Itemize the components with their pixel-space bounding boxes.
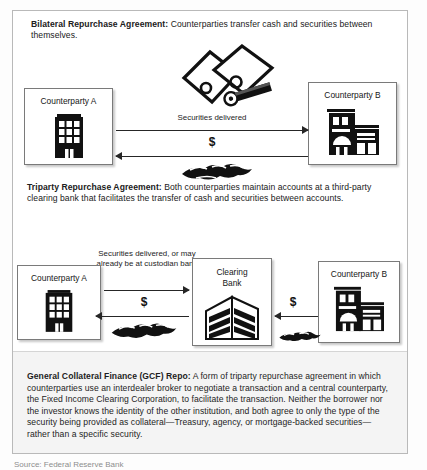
cash-banknotes-icon xyxy=(277,326,323,346)
source-caption-cropped: Source: Federal Reserve Bank xyxy=(14,462,344,470)
arrow-securities-a-to-b xyxy=(116,126,308,135)
arrow-shaft xyxy=(116,156,308,157)
securities-certificates-icon xyxy=(176,44,280,112)
arrow-cash-b-to-clearing xyxy=(275,312,318,321)
entity-label: Counterparty B xyxy=(319,269,399,279)
cash-banknotes-icon xyxy=(108,318,180,342)
entity-label-line1: Clearing xyxy=(216,267,247,277)
triparty-heading: Triparty Repurchase Agreement: Both coun… xyxy=(27,182,389,205)
arrow-label-cash-clearing-to-a: $ xyxy=(104,296,184,308)
arrow-head-left xyxy=(274,312,281,320)
gcf-heading-term: General Collateral Finance (GCF) Repo: xyxy=(27,371,191,381)
entity-label: Counterparty B xyxy=(309,90,396,100)
entity-box-counterparty-a-bilateral: Counterparty A xyxy=(24,88,113,165)
entity-label-line2: Bank xyxy=(222,278,241,288)
gcf-paragraph: General Collateral Finance (GCF) Repo: A… xyxy=(27,371,391,441)
arrow-head-right xyxy=(183,286,190,294)
arrow-securities-a-to-clearing xyxy=(104,286,189,295)
cash-banknotes-icon xyxy=(178,158,256,184)
arrow-label-securities-triparty: Securities delivered, or may already be … xyxy=(89,249,205,268)
entity-label: Counterparty A xyxy=(18,273,100,283)
arrow-shaft xyxy=(275,316,318,317)
office-building-icon xyxy=(25,110,112,160)
arrow-shaft xyxy=(104,290,189,291)
entity-label: Counterparty A xyxy=(25,96,112,106)
figure-page: Bilateral Repurchase Agreement: Counterp… xyxy=(0,0,427,470)
arrow-shaft xyxy=(116,130,308,131)
source-caption-text: Source: Federal Reserve Bank xyxy=(14,462,344,470)
arrow-head-left xyxy=(115,152,122,160)
arrow-shaft xyxy=(96,316,189,317)
arrow-head-left xyxy=(95,312,102,320)
arrow-head-right xyxy=(302,126,309,134)
entity-box-clearing-bank: Clearing Bank xyxy=(192,258,272,346)
office-building-icon xyxy=(18,286,100,334)
entity-box-counterparty-b-bilateral: Counterparty B xyxy=(308,82,397,165)
bank-building-icon xyxy=(319,283,399,333)
bilateral-heading-term: Bilateral Repurchase Agreement: xyxy=(31,19,168,29)
gcf-body-text: A form of triparty repurchase agreement … xyxy=(27,371,388,439)
arrow-label-cash-b-to-clearing: $ xyxy=(264,296,322,308)
entity-box-counterparty-b-triparty: Counterparty B xyxy=(318,261,400,343)
triparty-heading-term: Triparty Repurchase Agreement: xyxy=(27,182,162,192)
arrow-label-cash-bilateral: $ xyxy=(172,136,252,148)
clearing-bank-building-icon xyxy=(193,295,271,341)
entity-box-counterparty-a-triparty: Counterparty A xyxy=(17,265,101,340)
arrow-label-securities-bilateral: Securities delivered xyxy=(150,113,274,123)
bank-building-icon xyxy=(309,105,396,157)
bilateral-heading: Bilateral Repurchase Agreement: Counterp… xyxy=(31,19,387,42)
entity-label: Clearing Bank xyxy=(193,267,271,289)
